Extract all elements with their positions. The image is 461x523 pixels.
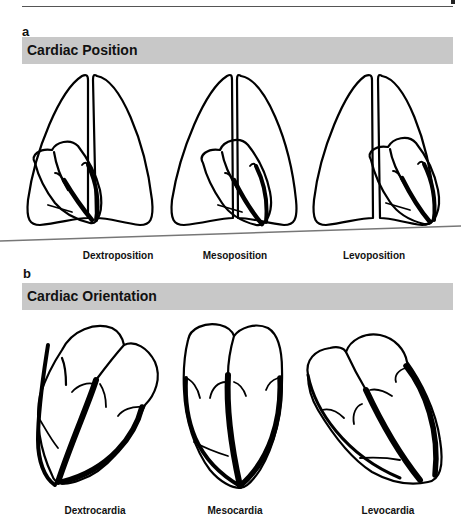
caption-levocardia: Levocardia [323,505,453,516]
dextrocardia-heart [38,326,158,485]
caption-dextroposition: Dextroposition [53,250,183,261]
caption-mesocardia: Mesocardia [170,505,300,516]
panel-b-letter: b [23,266,31,281]
panel-b-title: Cardiac Orientation [27,288,157,304]
caption-levoposition: Levoposition [309,250,439,261]
panel-b-banner: Cardiac Orientation [22,283,453,310]
levocardia-heart [307,334,441,483]
caption-mesoposition: Mesoposition [170,250,300,261]
cardiac-orientation-figure [0,310,461,495]
caption-dextrocardia: Dextrocardia [30,505,160,516]
mesocardia-heart [184,324,282,488]
